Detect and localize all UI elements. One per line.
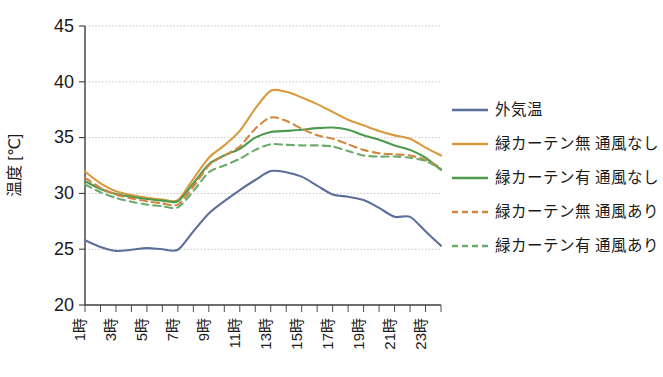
y-tick-label: 30 — [54, 183, 74, 203]
y-tick-label: 40 — [54, 72, 74, 92]
y-tick-label: 35 — [54, 127, 74, 147]
y-axis — [79, 26, 85, 305]
x-tick-label: 17時 — [319, 318, 336, 350]
grid-lines — [85, 26, 441, 249]
legend-label-1: 緑カーテン無 通風なし — [495, 135, 659, 152]
x-tick-label: 13時 — [257, 318, 274, 350]
x-tick-label: 15時 — [288, 318, 305, 350]
x-tick-label: 1時 — [71, 318, 88, 341]
x-tick-label: 21時 — [381, 318, 398, 350]
data-series-group — [85, 90, 441, 251]
y-tick-labels: 202530354045 — [54, 16, 74, 315]
y-tick-label: 25 — [54, 239, 74, 259]
legend-label-2: 緑カーテン有 通風なし — [495, 169, 659, 186]
x-tick-label: 7時 — [164, 318, 181, 341]
chart-svg: 温度 [℃] 202530354045 1時3時5時7時9時11時13時15時1… — [0, 0, 663, 377]
y-axis-title: 温度 [℃] — [6, 134, 23, 197]
series-line-3 — [85, 117, 441, 205]
x-tick-label: 11時 — [226, 318, 243, 349]
x-tick-label: 5時 — [133, 318, 150, 341]
x-tick-label: 19時 — [350, 318, 367, 350]
legend: 外気温緑カーテン無 通風なし緑カーテン有 通風なし緑カーテン無 通風あり緑カーテ… — [452, 101, 659, 254]
temperature-line-chart: 温度 [℃] 202530354045 1時3時5時7時9時11時13時15時1… — [0, 0, 663, 377]
legend-label-3: 緑カーテン無 通風あり — [495, 203, 659, 220]
legend-label-0: 外気温 — [495, 101, 543, 118]
x-tick-labels: 1時3時5時7時9時11時13時15時17時19時21時23時 — [71, 318, 429, 350]
x-axis — [85, 305, 441, 312]
y-tick-label: 45 — [54, 16, 74, 36]
x-tick-label: 3時 — [102, 318, 119, 341]
x-tick-label: 9時 — [195, 318, 212, 341]
legend-label-4: 緑カーテン有 通風あり — [495, 237, 659, 254]
x-tick-label: 23時 — [412, 318, 429, 350]
series-line-2 — [85, 127, 441, 202]
series-line-0 — [85, 171, 441, 251]
y-axis-title-text: 温度 [℃] — [6, 134, 23, 197]
y-tick-label: 20 — [54, 295, 74, 315]
